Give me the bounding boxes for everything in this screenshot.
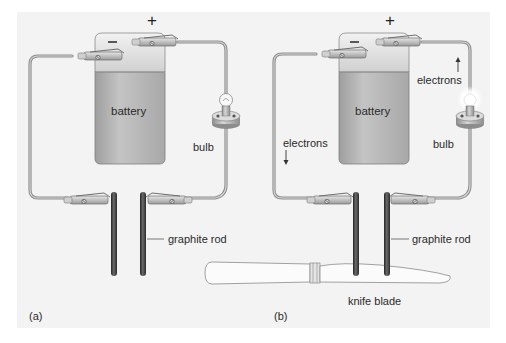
plus-sign-b: + (385, 12, 395, 29)
electron-arrow-left (284, 150, 289, 165)
graphite-rod-label-b: graphite rod (412, 234, 471, 245)
graphite-rod-left-b (353, 192, 359, 276)
circuit-diagram (0, 0, 506, 343)
panel-a-caption: (a) (29, 311, 42, 322)
graphite-rod-label-a: graphite rod (168, 234, 227, 245)
knife-blade-label: knife blade (348, 296, 401, 307)
bulb-label-a: bulb (193, 142, 214, 153)
electrons-label-right: electrons (417, 75, 462, 86)
panel-b (205, 33, 484, 284)
knife-blade (205, 262, 450, 284)
battery-label-a: battery (111, 106, 146, 118)
graphite-rod-right-b (384, 192, 390, 276)
battery-label-b: battery (355, 106, 390, 118)
graphite-rod-left-a (111, 192, 117, 276)
graphite-rod-right-a (140, 192, 146, 276)
panel-b-caption: (b) (274, 311, 287, 322)
bulb-a (212, 94, 240, 130)
bulb-label-b: bulb (433, 139, 454, 150)
bulb-b-lit (456, 86, 484, 129)
electrons-label-left: electrons (283, 138, 328, 149)
electron-arrow-right (456, 57, 461, 72)
plus-sign-a: + (147, 12, 157, 29)
